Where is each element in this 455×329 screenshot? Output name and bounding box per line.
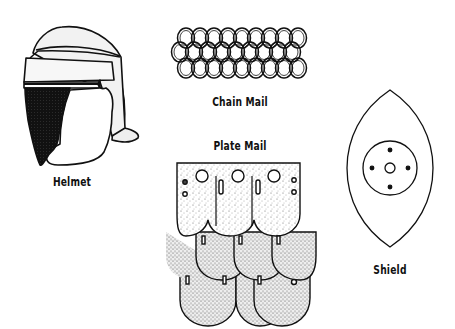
chain-mail-drawing [172,28,307,78]
chain-ring-inner [230,45,242,60]
plate-mail-label: Plate Mail [210,139,270,153]
chain-ring-inner [272,45,284,60]
armor-illustration [0,0,455,329]
chain-ring-inner [236,61,248,76]
chain-ring-inner [180,61,192,76]
chain-ring-inner [278,61,290,76]
chain-ring-inner [292,61,304,76]
chain-ring-inner [216,45,228,60]
chain-ring-inner [264,61,276,76]
chain-ring-inner [286,45,298,60]
chain-ring-inner [202,45,214,60]
chain-ring-inner [208,61,220,76]
chain-ring-inner [188,45,200,60]
chain-ring-inner [174,45,186,60]
plate-mail-drawing [166,163,316,326]
shield-drawing [347,90,433,247]
shield-label: Shield [365,263,416,277]
chain-ring-inner [258,45,270,60]
chain-mail-label: Chain Mail [210,95,270,109]
helmet-drawing [24,27,138,166]
chain-ring-inner [250,61,262,76]
chain-ring-inner [292,31,304,46]
chain-ring-inner [244,45,256,60]
chain-ring-inner [194,61,206,76]
chain-ring-inner [222,61,234,76]
helmet-label: Helmet [47,175,98,189]
